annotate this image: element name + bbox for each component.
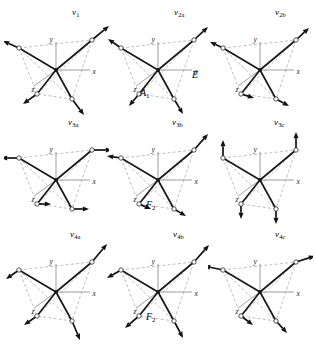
axis-label-y: y	[49, 35, 54, 44]
mode-subscript: 4b	[177, 233, 184, 240]
atom-top-right	[192, 38, 196, 42]
displacement-arrow-bottom-left-head	[247, 94, 254, 99]
atom-center	[54, 290, 58, 294]
bond-top-left	[223, 270, 260, 292]
axis-label-x: x	[92, 67, 97, 76]
atom-top-right	[90, 260, 94, 264]
panel-v3a-label: v3a	[68, 118, 78, 127]
atom-top-left	[17, 156, 21, 160]
tetrahedron-edge-0	[19, 262, 92, 270]
bond-bottom-right	[158, 70, 174, 99]
tetrahedron-edge-0	[121, 40, 194, 48]
displacement-arrow-bottom-right-head	[75, 333, 80, 340]
symmetry-subscript: 2	[152, 316, 156, 324]
mode-subscript: 2a	[178, 11, 184, 18]
displacement-arrow-top-left-head	[210, 42, 217, 47]
bond-top-left	[223, 158, 260, 180]
atom-bottom-right	[70, 207, 74, 211]
panel-v2b-label: v2b	[275, 8, 286, 17]
tetrahedron-edge-0	[223, 40, 296, 48]
bond-bottom-right	[260, 180, 276, 209]
tetrahedron-edge-4	[19, 270, 72, 321]
atom-top-right	[192, 260, 196, 264]
atom-top-left	[119, 268, 123, 272]
atom-center	[156, 290, 160, 294]
displacement-arrow-bottom-left-head	[239, 213, 244, 219]
axis-label-x: x	[296, 177, 301, 186]
bond-bottom-right	[56, 70, 72, 99]
axis-label-z: z	[235, 307, 239, 316]
tetrahedron-edge-2	[139, 316, 174, 321]
panel-v1: xyz	[4, 14, 109, 126]
tetrahedron-drawing: xyz	[208, 14, 313, 126]
atom-bottom-left	[35, 92, 39, 96]
atom-top-right	[90, 38, 94, 42]
axis-label-z: z	[235, 85, 239, 94]
atom-bottom-right	[274, 319, 278, 323]
bond-bottom-right	[56, 180, 72, 209]
atom-bottom-right	[274, 97, 278, 101]
bond-top-right	[56, 150, 92, 180]
bond-top-right	[260, 262, 296, 292]
tetrahedron-drawing: xyz	[4, 236, 109, 344]
mode-subscript: 3b	[176, 121, 183, 128]
tetrahedron-edge-2	[37, 94, 72, 99]
tetrahedron-edge-4	[19, 158, 72, 209]
tetrahedron-edge-0	[19, 40, 92, 48]
tetrahedron-edge-0	[121, 150, 194, 158]
mode-subscript: 4a	[74, 233, 80, 240]
displacement-arrow-bottom-right-head	[178, 107, 183, 114]
atom-center	[156, 178, 160, 182]
displacement-arrow-bottom-right-head	[282, 101, 289, 106]
bond-top-left	[19, 48, 56, 70]
atom-center	[258, 178, 262, 182]
panel-v3b-label: v3b	[172, 118, 183, 127]
tetrahedron-edge-0	[19, 150, 92, 158]
sym-e: E	[192, 70, 198, 80]
axis-label-x: x	[92, 177, 97, 186]
panel-v2b: xyz	[208, 14, 313, 126]
axis-label-y: y	[253, 145, 258, 154]
displacement-arrow-bottom-right-head	[274, 218, 279, 224]
panel-v4b: xyz	[106, 236, 211, 344]
displacement-arrow-bottom-right-head	[179, 211, 186, 216]
bond-bottom-right	[56, 292, 72, 321]
symmetry-subscript: 2	[152, 204, 156, 212]
displacement-arrow-top-left-head	[221, 140, 226, 146]
atom-bottom-right	[274, 207, 278, 211]
atom-center	[258, 68, 262, 72]
mode-subscript: 1	[76, 11, 79, 18]
atom-bottom-right	[70, 319, 74, 323]
tetrahedron-drawing: xyz	[4, 14, 109, 126]
axis-label-y: y	[253, 257, 258, 266]
atom-top-left	[221, 268, 225, 272]
bond-top-right	[158, 262, 194, 292]
panel-v4a-label: v4a	[70, 230, 80, 239]
sym-a1: A1	[140, 88, 150, 98]
tetrahedron-edge-0	[223, 150, 296, 158]
atom-top-left	[221, 156, 225, 160]
axis-label-y: y	[49, 145, 54, 154]
atom-bottom-right	[172, 207, 176, 211]
panel-v2a-label: v2a	[174, 8, 184, 17]
tetrahedron-edge-4	[223, 48, 276, 99]
axis-label-y: y	[253, 35, 258, 44]
tetrahedron-drawing: xyz	[106, 236, 211, 344]
atom-center	[54, 68, 58, 72]
axis-label-z: z	[235, 195, 239, 204]
displacement-arrow-bottom-right-head	[83, 207, 89, 212]
atom-bottom-left	[35, 314, 39, 318]
panel-v4c: xyz	[208, 236, 313, 344]
axis-label-z: z	[31, 195, 35, 204]
bond-top-left	[223, 48, 260, 70]
bond-top-right	[158, 150, 194, 180]
axis-label-x: x	[296, 67, 301, 76]
atom-top-left	[17, 46, 21, 50]
bond-top-right	[260, 40, 296, 70]
mode-subscript: 3a	[72, 121, 78, 128]
bond-top-left	[121, 158, 158, 180]
axis-label-y: y	[151, 35, 156, 44]
displacement-arrow-top-left-head	[4, 156, 7, 161]
atom-top-right	[192, 148, 196, 152]
panel-v4b-label: v4b	[173, 230, 184, 239]
